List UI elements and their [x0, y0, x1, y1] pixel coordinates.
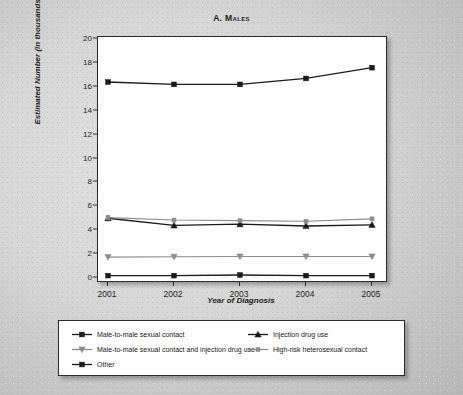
plot-inner — [98, 37, 386, 281]
y-tick-label: 14 — [76, 105, 92, 114]
legend-item[interactable]: Injection drug use — [247, 328, 328, 340]
data-point-marker — [238, 273, 243, 278]
legend-marker-icon — [247, 329, 269, 340]
y-tick-label: 8 — [76, 177, 92, 186]
figure-page: A. Males Estimated Number (in thousands)… — [0, 0, 463, 395]
legend-label: High-risk heterosexual contact — [273, 346, 367, 353]
data-point-marker — [370, 65, 375, 70]
y-tick-label: 12 — [76, 129, 92, 138]
data-point-marker — [304, 76, 309, 81]
page-title: A. Males — [0, 13, 463, 23]
legend-item[interactable]: High-risk heterosexual contact — [247, 343, 367, 355]
legend-label: Other — [97, 361, 115, 368]
series-line — [106, 65, 375, 87]
legend-label: Male-to-male sexual contact — [97, 331, 185, 338]
y-tick-label: 16 — [76, 81, 92, 90]
y-tick-label: 20 — [76, 34, 92, 43]
data-point-marker — [106, 273, 111, 278]
legend-label: Male-to-male sexual contact and injectio… — [97, 346, 255, 353]
legend-item[interactable]: Male-to-male sexual contact — [71, 328, 185, 340]
y-tick-label: 4 — [76, 225, 92, 234]
x-tick-mark — [305, 281, 306, 286]
data-point-marker — [370, 273, 375, 278]
data-point-marker — [106, 80, 111, 85]
legend-label: Injection drug use — [273, 331, 328, 338]
legend-marker-icon — [71, 329, 93, 340]
data-point-marker — [370, 217, 374, 221]
x-tick-mark — [107, 281, 108, 286]
legend-item[interactable]: Male-to-male sexual contact and injectio… — [71, 343, 255, 355]
x-tick-mark — [371, 281, 372, 286]
y-tick-label: 18 — [76, 57, 92, 66]
y-tick-label: 6 — [76, 201, 92, 210]
data-point-marker — [304, 219, 308, 223]
legend-marker-icon — [71, 359, 93, 370]
data-point-marker — [238, 219, 242, 223]
chart-svg — [98, 37, 386, 281]
x-axis-label: Year of Diagnosis — [97, 296, 385, 305]
plot-area — [97, 36, 387, 282]
data-point-marker — [106, 216, 110, 220]
y-axis-label: Estimated Number (in thousands) — [33, 0, 42, 136]
legend-marker-icon — [247, 344, 269, 355]
legend-marker-icon — [71, 344, 93, 355]
data-point-marker — [238, 82, 243, 87]
y-tick-label: 10 — [76, 153, 92, 162]
data-point-marker — [172, 273, 177, 278]
legend-item[interactable]: Other — [71, 358, 115, 370]
y-tick-label: 0 — [76, 273, 92, 282]
data-point-marker — [172, 218, 176, 222]
chart-legend: Male-to-male sexual contactMale-to-male … — [58, 320, 405, 376]
series-line — [105, 254, 375, 260]
x-tick-mark — [173, 281, 174, 286]
y-tick-label: 2 — [76, 249, 92, 258]
y-axis-ticks: 02468101214161820 — [74, 36, 92, 280]
series-line — [106, 273, 375, 278]
x-tick-mark — [239, 281, 240, 286]
data-point-marker — [304, 273, 309, 278]
data-point-marker — [172, 82, 177, 87]
